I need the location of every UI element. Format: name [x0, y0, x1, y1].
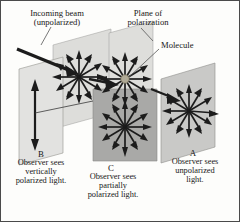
- polarization-scattering-figure: Incoming beam (unpolarized) Plane of pol…: [0, 0, 240, 222]
- molecule-dot: [121, 75, 129, 83]
- label-incoming-beam: Incoming beam (unpolarized): [9, 9, 105, 27]
- observer-c-caption: Observer sees partially polarized light.: [63, 173, 163, 199]
- observer-a-caption: Observer sees unpolarized light.: [153, 158, 237, 184]
- leader-incoming-beam: [41, 27, 51, 45]
- label-molecule: Molecule: [161, 41, 229, 50]
- label-plane-of-polarization: Plane of polarization: [111, 9, 185, 27]
